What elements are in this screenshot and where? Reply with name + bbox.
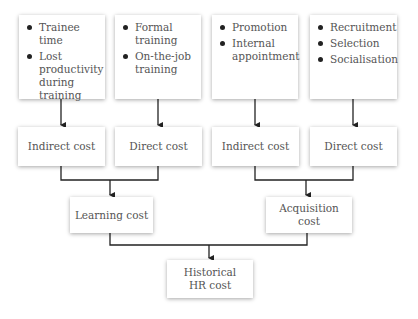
acquisition-direct-cost-box: Direct cost	[310, 127, 397, 166]
list-item: Lost productivity during training	[27, 50, 101, 102]
training-types-box: Formal training On-the-job training	[115, 15, 201, 99]
box-label: Direct cost	[115, 127, 202, 166]
list-item: Recruitment	[318, 21, 393, 34]
trainee-costs-box: Trainee time Lost productivity during tr…	[19, 15, 105, 99]
internal-moves-box: Promotion Internal appointment	[212, 15, 298, 99]
box-label: Historical HR cost	[167, 260, 253, 298]
list-item: Selection	[318, 37, 393, 50]
hiring-box: Recruitment Selection Socialisation	[310, 15, 397, 99]
learning-cost-box: Learning cost	[70, 197, 153, 233]
box-label: Direct cost	[310, 127, 397, 166]
list-item: Promotion	[220, 21, 294, 34]
box-label: Indirect cost	[212, 127, 299, 166]
box-label: Learning cost	[70, 197, 153, 233]
learning-indirect-cost-box: Indirect cost	[18, 127, 105, 166]
box-label: Acquisition cost	[266, 197, 352, 233]
list-item: On-the-job training	[123, 50, 197, 76]
historical-hr-cost-box: Historical HR cost	[167, 260, 253, 298]
list-item: Trainee time	[27, 21, 101, 47]
acquisition-indirect-cost-box: Indirect cost	[212, 127, 299, 166]
box-label: Indirect cost	[18, 127, 105, 166]
list-item: Internal appointment	[220, 37, 294, 63]
acquisition-cost-box: Acquisition cost	[266, 197, 352, 233]
list-item: Socialisation	[318, 53, 393, 66]
learning-direct-cost-box: Direct cost	[115, 127, 202, 166]
list-item: Formal training	[123, 21, 197, 47]
